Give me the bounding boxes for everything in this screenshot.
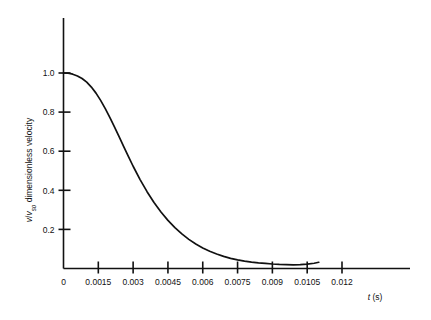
velocity-decay-chart: 0.20.40.60.81.0 00.00150.0030.00450.0060…: [0, 0, 431, 320]
y-axis-tick-label: 0.2: [43, 225, 55, 235]
x-axis-tick-label: 0.006: [192, 277, 214, 287]
x-axis-tick-label: 0.0015: [85, 277, 111, 287]
x-axis-tick-label: 0.003: [122, 277, 144, 287]
y-axis-tick-label: 1.0: [43, 68, 55, 78]
x-axis-tick-label: 0.0105: [294, 277, 320, 287]
chart-background: [0, 0, 431, 320]
x-axis-tick-label: 0.0045: [155, 277, 181, 287]
y-axis-tick-label: 0.6: [43, 146, 55, 156]
x-axis-tick-label: 0.0075: [225, 277, 251, 287]
x-axis-tick-label: 0.012: [331, 277, 353, 287]
chart-container: 0.20.40.60.81.0 00.00150.0030.00450.0060…: [0, 0, 431, 320]
y-axis-tick-label: 0.4: [43, 186, 55, 196]
x-axis-tick-label: 0.009: [262, 277, 284, 287]
x-axis-tick-label: 0: [61, 277, 66, 287]
x-axis-title: t (s): [368, 292, 383, 302]
y-axis-tick-label: 0.8: [43, 107, 55, 117]
x-axis-tick-labels: 00.00150.0030.00450.0060.00750.0090.0105…: [61, 277, 353, 287]
